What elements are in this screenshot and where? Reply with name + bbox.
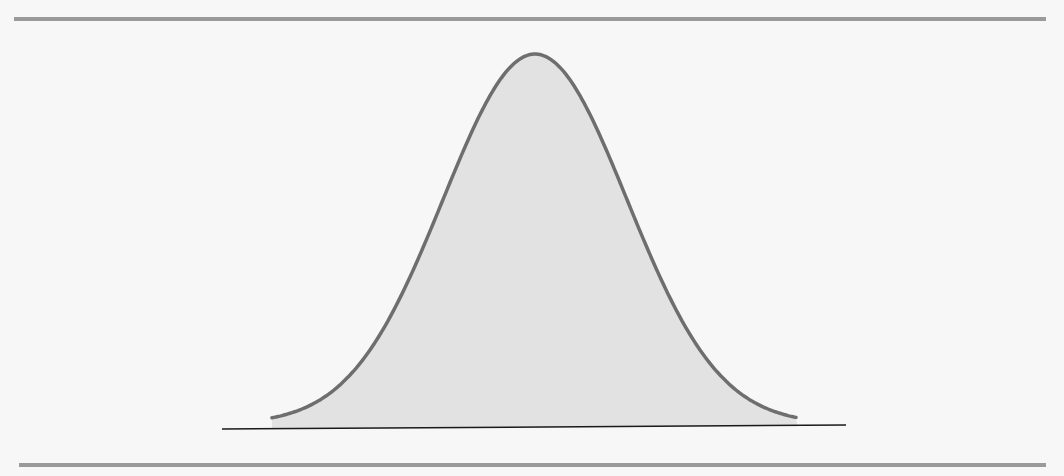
bell-curve-diagram — [0, 0, 1064, 476]
bell-curve-figure — [0, 0, 1064, 476]
